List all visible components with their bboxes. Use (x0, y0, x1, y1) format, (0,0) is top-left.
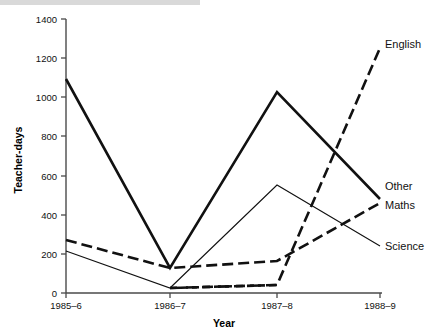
x-tick-label-1985-6: 1985–6 (50, 300, 82, 311)
x-tick-label-1986-7: 1986–7 (154, 300, 186, 311)
series-line-other (66, 79, 380, 268)
y-tick-label-0: 0 (52, 288, 57, 299)
y-axis-title: Teacher-days (12, 126, 24, 193)
y-tick-marks (61, 19, 66, 293)
y-tick-label-200: 200 (41, 249, 57, 260)
series-label-science: Science (385, 240, 424, 252)
series-line-science (66, 185, 380, 288)
series-label-english: English (385, 38, 421, 50)
y-tick-label-800: 800 (41, 131, 57, 142)
scan-artifact-bar (0, 0, 200, 5)
series-label-maths: Maths (385, 199, 415, 211)
line-chart: 1400 1200 1000 800 600 400 200 0 1985–6 … (0, 0, 433, 336)
y-tick-label-1000: 1000 (36, 92, 57, 103)
y-tick-label-600: 600 (41, 171, 57, 182)
series-line-maths (66, 203, 380, 268)
y-tick-label-1400: 1400 (36, 14, 57, 25)
chart-svg: 1400 1200 1000 800 600 400 200 0 1985–6 … (0, 0, 433, 336)
x-tick-label-1988-9: 1988–9 (364, 300, 396, 311)
y-tick-label-400: 400 (41, 210, 57, 221)
x-tick-marks (66, 293, 380, 298)
x-axis-title: Year (213, 317, 235, 329)
x-tick-label-1987-8: 1987–8 (261, 300, 293, 311)
y-tick-label-1200: 1200 (36, 53, 57, 64)
series-label-other: Other (385, 180, 413, 192)
